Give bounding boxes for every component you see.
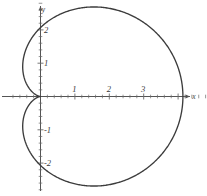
plot-canvas: 12321-1-2 x y <box>0 0 207 196</box>
x-tick-label: 3 <box>140 84 145 94</box>
plot-background <box>0 0 207 196</box>
cardioid-plot-figure: 12321-1-2 x y <box>0 0 207 196</box>
x-tick-label: 1 <box>72 84 76 94</box>
y-tick-label: -1 <box>44 125 51 135</box>
y-tick-label: 1 <box>44 58 48 68</box>
y-axis-label: y <box>41 5 46 14</box>
y-tick-label: -2 <box>44 158 52 168</box>
x-tick-label: 2 <box>107 84 112 94</box>
x-axis-label: x <box>191 92 196 101</box>
